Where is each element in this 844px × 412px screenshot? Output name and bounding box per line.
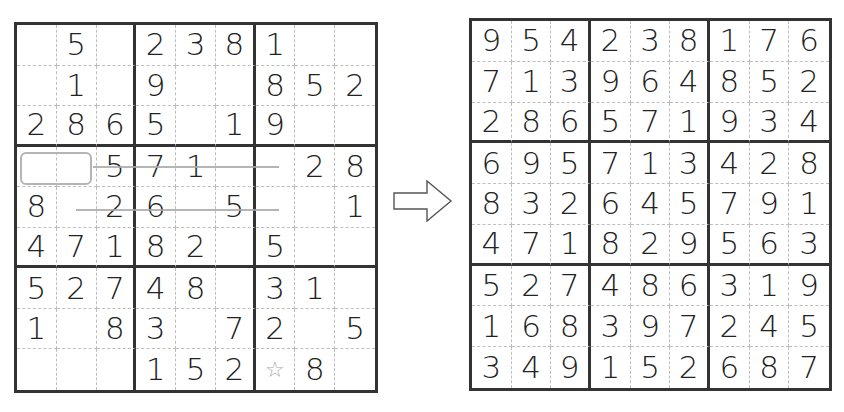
cell-r5c8 — [295, 187, 335, 228]
cell-r9c5: 5 — [176, 349, 216, 390]
cell-r4c6: 3 — [670, 143, 710, 184]
cell-r4c8: 2 — [295, 147, 335, 188]
cell-r2c2: 1 — [57, 66, 97, 107]
cell-r7c4: 4 — [591, 266, 631, 307]
cell-r2c2: 1 — [512, 62, 552, 103]
cell-r6c3: 1 — [551, 225, 591, 266]
annotation-line-row5 — [76, 209, 279, 211]
cell-r1c8 — [295, 25, 335, 66]
cell-r6c4: 8 — [591, 225, 631, 266]
cell-r9c6: 2 — [670, 347, 710, 388]
cell-r6c2: 7 — [57, 228, 97, 269]
cell-r9c6: 2 — [216, 349, 256, 390]
cell-r1c2: 5 — [57, 25, 97, 66]
cell-r3c7: 9 — [710, 103, 750, 144]
cell-r9c2: 4 — [512, 347, 552, 388]
cell-r8c8: 4 — [750, 306, 790, 347]
cell-r9c2 — [57, 349, 97, 390]
cell-r7c3: 7 — [551, 266, 591, 307]
cell-r2c5 — [176, 66, 216, 107]
cell-r6c8: 6 — [750, 225, 790, 266]
cell-r6c7: 5 — [256, 228, 296, 269]
cell-r9c7: ☆ — [256, 349, 296, 390]
cell-r7c6: 6 — [670, 266, 710, 307]
cell-r6c7: 5 — [710, 225, 750, 266]
cell-r2c8: 5 — [750, 62, 790, 103]
cell-r1c5: 3 — [176, 25, 216, 66]
cell-r5c9: 1 — [789, 184, 829, 225]
cell-r8c9: 5 — [789, 306, 829, 347]
cell-r8c3: 8 — [551, 306, 591, 347]
cell-r8c6: 7 — [216, 309, 256, 350]
cell-r9c7: 6 — [710, 347, 750, 388]
cell-r7c6 — [216, 268, 256, 309]
cell-r7c7: 3 — [710, 266, 750, 307]
cell-r8c5 — [176, 309, 216, 350]
annotation-line-row4 — [93, 166, 279, 168]
cell-r7c1: 5 — [472, 266, 512, 307]
cell-r2c1 — [17, 66, 57, 107]
cell-r9c1: 3 — [472, 347, 512, 388]
cell-r6c6: 9 — [670, 225, 710, 266]
cell-r2c9: 2 — [335, 66, 375, 107]
cell-r6c9 — [335, 228, 375, 269]
cell-r9c8: 8 — [750, 347, 790, 388]
cell-r8c4: 3 — [591, 306, 631, 347]
cell-r5c7: 7 — [710, 184, 750, 225]
cell-r3c1: 2 — [17, 106, 57, 147]
cell-r7c2: 2 — [512, 266, 552, 307]
cell-r5c4: 6 — [136, 187, 176, 228]
cell-r5c1: 8 — [472, 184, 512, 225]
cell-r7c2: 2 — [57, 268, 97, 309]
cell-r3c2: 8 — [512, 103, 552, 144]
solution-grid: 9542381767139648522865719346957134288326… — [469, 18, 832, 391]
cell-r8c9: 5 — [335, 309, 375, 350]
cell-r2c7: 8 — [710, 62, 750, 103]
cell-r8c6: 7 — [670, 306, 710, 347]
cell-r3c3: 6 — [551, 103, 591, 144]
cell-r5c7 — [256, 187, 296, 228]
cell-r8c8 — [295, 309, 335, 350]
cell-r5c1: 8 — [17, 187, 57, 228]
cell-r1c5: 3 — [631, 21, 671, 62]
cell-r3c6: 1 — [670, 103, 710, 144]
cell-r1c6: 8 — [670, 21, 710, 62]
cell-r2c9: 2 — [789, 62, 829, 103]
cell-r9c9: 7 — [789, 347, 829, 388]
cell-r7c5: 8 — [176, 268, 216, 309]
cell-r5c6: 5 — [670, 184, 710, 225]
cell-r9c9 — [335, 349, 375, 390]
cell-r4c9: 8 — [789, 143, 829, 184]
cell-r1c7: 1 — [710, 21, 750, 62]
cell-r6c8 — [295, 228, 335, 269]
cell-r8c7: 2 — [256, 309, 296, 350]
cell-r1c9: 6 — [789, 21, 829, 62]
cell-r1c2: 5 — [512, 21, 552, 62]
cell-r3c4: 5 — [136, 106, 176, 147]
cell-r6c4: 8 — [136, 228, 176, 269]
cell-r6c5: 2 — [631, 225, 671, 266]
cell-r6c3: 1 — [97, 228, 137, 269]
cell-r5c2 — [57, 187, 97, 228]
cell-r5c3: 2 — [97, 187, 137, 228]
cell-r8c1: 1 — [17, 309, 57, 350]
cell-r2c1: 7 — [472, 62, 512, 103]
cell-r3c8: 3 — [750, 103, 790, 144]
cell-r2c6 — [216, 66, 256, 107]
cell-r3c4: 5 — [591, 103, 631, 144]
cell-r7c9 — [335, 268, 375, 309]
cell-r6c5: 2 — [176, 228, 216, 269]
cell-r7c9: 9 — [789, 266, 829, 307]
cell-r5c5 — [176, 187, 216, 228]
cell-r4c3: 5 — [551, 143, 591, 184]
cell-r5c3: 2 — [551, 184, 591, 225]
cell-r1c1 — [17, 25, 57, 66]
cell-r3c2: 8 — [57, 106, 97, 147]
cell-r4c4: 7 — [591, 143, 631, 184]
cell-r3c1: 2 — [472, 103, 512, 144]
cell-r2c3: 3 — [551, 62, 591, 103]
star-outline-icon: ☆ — [265, 359, 285, 381]
cell-r1c3 — [97, 25, 137, 66]
cell-r9c3 — [97, 349, 137, 390]
cell-r6c1: 4 — [17, 228, 57, 269]
